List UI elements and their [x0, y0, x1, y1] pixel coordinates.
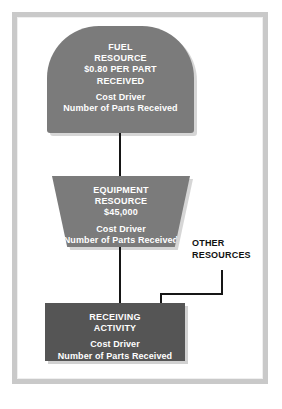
label-other-resources: OTHER RESOURCES: [192, 238, 272, 261]
node-receiving-activity-cost-driver: Cost Driver Number of Parts Received: [45, 339, 185, 362]
node-fuel-resource-content: FUEL RESOURCE $0.80 PER PART RECEIVED Co…: [47, 42, 194, 115]
node-receiving-activity-title-line-1: RECEIVING: [45, 312, 185, 323]
node-equipment-resource-content: EQUIPMENT RESOURCE $45,000 Cost Driver N…: [52, 185, 190, 247]
node-equipment-resource-title-line-1: EQUIPMENT: [52, 185, 190, 196]
diagram-canvas: FUEL RESOURCE $0.80 PER PART RECEIVED Co…: [0, 0, 282, 409]
node-equipment-resource-cost-driver-label: Cost Driver: [96, 224, 146, 234]
node-receiving-activity-cost-driver-label: Cost Driver: [90, 339, 140, 349]
node-fuel-resource-title-line-2: RESOURCE: [47, 53, 194, 64]
node-fuel-resource-cost-driver: Cost Driver Number of Parts Received: [47, 92, 194, 115]
node-receiving-activity-title-line-2: ACTIVITY: [45, 323, 185, 334]
node-equipment-resource-cost-driver-value: Number of Parts Received: [52, 235, 190, 247]
node-equipment-resource-title-line-3: $45,000: [52, 207, 190, 218]
node-fuel-resource-title-line-3: $0.80 PER PART: [47, 64, 194, 75]
node-equipment-resource-title-line-2: RESOURCE: [52, 196, 190, 207]
node-fuel-resource-cost-driver-value: Number of Parts Received: [47, 103, 194, 115]
connector-fuel-to-equipment: [119, 133, 121, 177]
node-receiving-activity-cost-driver-value: Number of Parts Received: [45, 351, 185, 363]
node-fuel-resource[interactable]: FUEL RESOURCE $0.80 PER PART RECEIVED Co…: [47, 26, 194, 133]
node-fuel-resource-title-line-1: FUEL: [47, 42, 194, 53]
connector-equipment-to-receiving: [119, 247, 121, 304]
connector-other-resources-vertical-upper: [221, 270, 223, 295]
node-equipment-resource-cost-driver: Cost Driver Number of Parts Received: [52, 224, 190, 247]
node-fuel-resource-title-line-4: RECEIVED: [47, 76, 194, 87]
label-other-resources-line-2: RESOURCES: [192, 250, 272, 262]
node-equipment-resource[interactable]: EQUIPMENT RESOURCE $45,000 Cost Driver N…: [52, 176, 190, 247]
connector-other-resources-horizontal: [160, 293, 223, 295]
node-receiving-activity[interactable]: RECEIVING ACTIVITY Cost Driver Number of…: [45, 303, 185, 361]
label-other-resources-line-1: OTHER: [192, 238, 225, 248]
node-receiving-activity-content: RECEIVING ACTIVITY Cost Driver Number of…: [45, 312, 185, 363]
node-fuel-resource-cost-driver-label: Cost Driver: [96, 92, 146, 102]
